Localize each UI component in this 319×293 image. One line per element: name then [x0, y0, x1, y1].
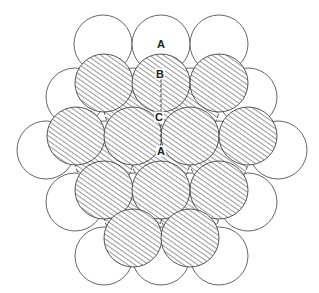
- label-c: C: [154, 112, 164, 123]
- close-packing-diagram: A B C A: [0, 0, 319, 293]
- sphere-b: [104, 209, 162, 267]
- sphere-b: [47, 107, 105, 165]
- sphere-b: [161, 107, 219, 165]
- label-a-middle: A: [156, 146, 166, 157]
- sphere-b: [132, 54, 190, 112]
- sphere-b: [190, 54, 248, 112]
- sphere-b: [75, 54, 133, 112]
- sphere-b: [161, 209, 219, 267]
- label-b: B: [155, 69, 165, 80]
- sphere-b: [219, 107, 277, 165]
- label-a-top: A: [156, 39, 166, 50]
